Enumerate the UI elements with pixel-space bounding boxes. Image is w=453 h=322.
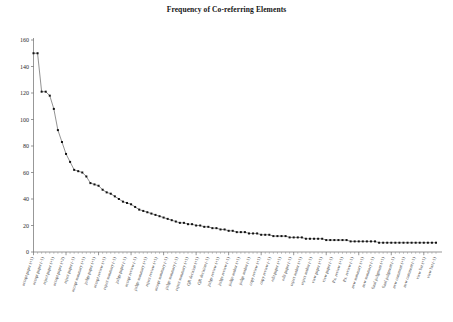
- data-point: [163, 217, 165, 219]
- data-point: [41, 91, 43, 93]
- data-point: [228, 230, 230, 232]
- data-point: [325, 239, 327, 241]
- data-point: [61, 141, 63, 143]
- data-point: [114, 195, 116, 197]
- data-point: [98, 185, 100, 187]
- data-point: [65, 153, 67, 155]
- y-axis: 020406080100120140160: [20, 37, 34, 255]
- data-point: [362, 240, 364, 242]
- data-point: [183, 222, 185, 224]
- data-point: [53, 108, 55, 110]
- data-point: [419, 242, 421, 244]
- data-point: [256, 232, 258, 234]
- data-point: [126, 202, 128, 204]
- data-point: [146, 211, 148, 213]
- data-point: [321, 238, 323, 240]
- line-chart-plot: 020406080100120140160 accept paper (+1)a…: [0, 0, 453, 322]
- data-point: [134, 206, 136, 208]
- data-point: [358, 240, 360, 242]
- data-point: [37, 52, 39, 54]
- data-point: [77, 170, 79, 172]
- data-point: [272, 235, 274, 237]
- data-point: [248, 232, 250, 234]
- data-point: [276, 235, 278, 237]
- data-point: [333, 239, 335, 241]
- data-point: [81, 172, 83, 174]
- data-point: [354, 240, 356, 242]
- data-point: [207, 226, 209, 228]
- data-point: [73, 169, 75, 171]
- data-point: [402, 242, 404, 244]
- data-point: [138, 209, 140, 211]
- x-tick-label: view list (-1): [425, 256, 437, 279]
- data-point: [130, 203, 132, 205]
- data-point: [175, 221, 177, 223]
- data-point: [244, 231, 246, 233]
- y-tick-label: 0: [26, 249, 29, 255]
- data-point: [171, 219, 173, 221]
- data-point: [390, 242, 392, 244]
- data-point: [106, 191, 108, 193]
- data-point: [110, 193, 112, 195]
- y-tick-label: 40: [23, 196, 29, 202]
- data-point: [378, 242, 380, 244]
- data-point: [195, 225, 197, 227]
- data-point: [236, 231, 238, 233]
- data-point: [285, 235, 287, 237]
- data-point: [374, 240, 376, 242]
- data-point: [89, 182, 91, 184]
- x-tick-labels: accept paper (+1)accept paper (-1)reject…: [20, 256, 437, 293]
- y-tick-label: 140: [20, 64, 29, 70]
- data-point: [33, 52, 35, 54]
- data-point: [260, 234, 262, 236]
- data-point: [346, 239, 348, 241]
- data-point: [366, 240, 368, 242]
- data-point: [317, 238, 319, 240]
- data-point: [191, 223, 193, 225]
- data-point: [431, 242, 433, 244]
- data-point: [297, 236, 299, 238]
- y-tick-label: 80: [23, 143, 29, 149]
- data-point: [427, 242, 429, 244]
- data-point: [289, 236, 291, 238]
- data-point: [301, 236, 303, 238]
- data-point: [45, 91, 47, 93]
- data-point: [224, 228, 226, 230]
- data-point: [215, 227, 217, 229]
- data-point: [118, 198, 120, 200]
- data-point: [386, 242, 388, 244]
- y-tick-label: 120: [20, 90, 29, 96]
- data-point: [293, 236, 295, 238]
- data-point: [329, 239, 331, 241]
- y-tick-label: 100: [20, 117, 29, 123]
- data-point: [394, 242, 396, 244]
- data-point: [435, 242, 437, 244]
- x-axis: [34, 252, 443, 255]
- data-point: [122, 201, 124, 203]
- data-point: [159, 215, 161, 217]
- y-tick-label: 20: [23, 223, 29, 229]
- data-point: [407, 242, 409, 244]
- data-point: [102, 189, 104, 191]
- data-point: [415, 242, 417, 244]
- chart-figure: Frequency of Co-referring Elements 02040…: [0, 0, 453, 322]
- data-point: [232, 230, 234, 232]
- y-tick-label: 60: [23, 170, 29, 176]
- data-point: [411, 242, 413, 244]
- data-point: [211, 227, 213, 229]
- data-point: [179, 222, 181, 224]
- data-point: [252, 232, 254, 234]
- data-point: [220, 228, 222, 230]
- data-point: [57, 129, 59, 131]
- data-point: [69, 161, 71, 163]
- data-point: [313, 238, 315, 240]
- data-point: [370, 240, 372, 242]
- data-point: [240, 231, 242, 233]
- data-point: [199, 225, 201, 227]
- data-point: [341, 239, 343, 241]
- data-point: [268, 234, 270, 236]
- data-point: [93, 183, 95, 185]
- data-point: [264, 234, 266, 236]
- data-point: [305, 238, 307, 240]
- data-point: [337, 239, 339, 241]
